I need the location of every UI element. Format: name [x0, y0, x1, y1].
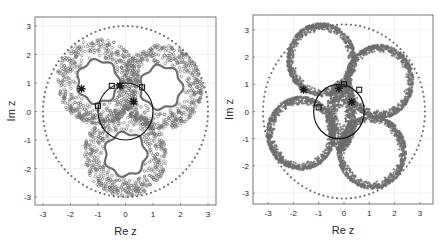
- right-plot-svg: -3-2-10123-3-2-10123Re zIm z: [222, 0, 447, 247]
- grid-lines: [253, 15, 433, 204]
- x-tick-label: 1: [151, 210, 156, 219]
- x-tick-label: -3: [39, 210, 47, 219]
- x-tick-label: -2: [67, 210, 75, 219]
- x-axis-label: Re z: [332, 224, 355, 236]
- asterisk-marker: [130, 98, 138, 106]
- y-tick-label: 0: [27, 108, 32, 117]
- asterisk-marker: [116, 82, 124, 90]
- x-axis-label: Re z: [114, 225, 137, 237]
- x-tick-label: -3: [265, 209, 273, 218]
- y-tick-label: -3: [24, 193, 32, 202]
- inner-boundary: [77, 59, 120, 104]
- x-tick-label: 2: [392, 209, 397, 218]
- x-tick-label: 3: [206, 210, 211, 219]
- right-plot: -3-2-10123-3-2-10123Re zIm z: [222, 0, 447, 247]
- x-tick-label: 3: [418, 209, 423, 218]
- y-tick-label: -2: [24, 165, 32, 174]
- y-axis-label: Im z: [5, 101, 17, 122]
- y-tick-label: 1: [245, 80, 250, 89]
- x-tick-label: 0: [342, 209, 347, 218]
- y-axis-label: Im z: [223, 99, 235, 120]
- y-tick-label: -3: [242, 189, 250, 198]
- axes-box: [253, 15, 433, 204]
- x-tick-label: -2: [290, 209, 298, 218]
- inner-boundary: [105, 132, 148, 177]
- asterisk-marker: [300, 86, 308, 94]
- x-tick-label: 1: [367, 209, 372, 218]
- asterisk-marker: [348, 98, 356, 106]
- square-marker: [357, 87, 362, 92]
- left-plot-svg: -3-2-10123-3-2-10123Re zIm z: [0, 0, 224, 247]
- x-tick-label: 2: [178, 210, 183, 219]
- x-tick-label: 0: [123, 210, 128, 219]
- y-tick-label: 2: [27, 51, 32, 60]
- y-tick-label: 1: [27, 79, 32, 88]
- x-tick-label: -1: [315, 209, 323, 218]
- y-tick-label: 3: [27, 22, 32, 31]
- y-tick-label: -2: [242, 162, 250, 171]
- annulus-points: [266, 95, 337, 171]
- x-tick-label: -1: [94, 210, 102, 219]
- y-tick-label: -1: [242, 135, 250, 144]
- y-tick-label: -1: [24, 136, 32, 145]
- asterisk-marker: [78, 85, 86, 93]
- y-tick-label: 0: [245, 108, 250, 117]
- inner-boundary: [141, 65, 184, 110]
- left-plot: -3-2-10123-3-2-10123Re zIm z: [0, 0, 224, 247]
- y-tick-label: 3: [245, 26, 250, 35]
- y-tick-label: 2: [245, 53, 250, 62]
